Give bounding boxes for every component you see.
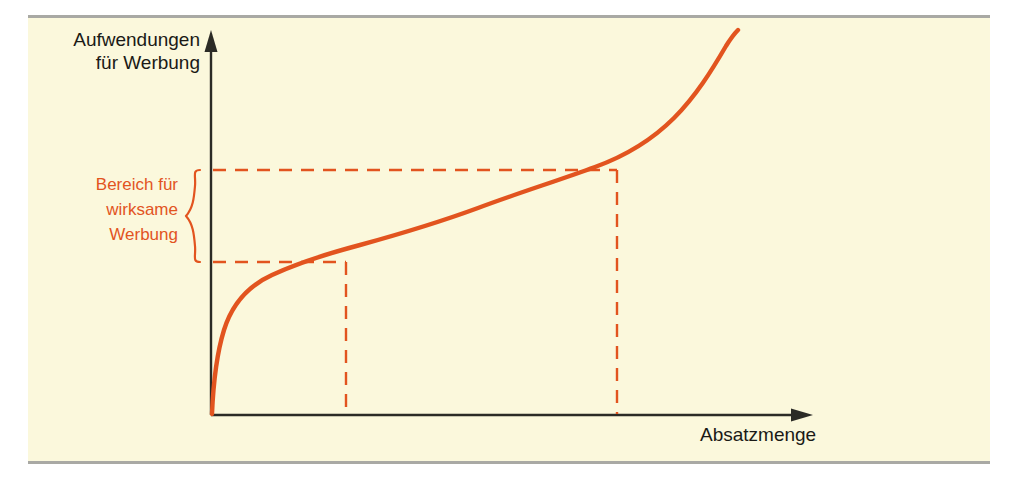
upper-threshold-guide xyxy=(213,170,617,414)
y-axis-label: Aufwendungen für Werbung xyxy=(52,28,200,74)
response-curve xyxy=(212,30,738,414)
advertising-response-curve-figure: Aufwendungen für Werbung Absatzmenge Ber… xyxy=(0,0,1010,484)
lower-threshold-guide xyxy=(213,262,346,414)
effective-range-brace-icon xyxy=(186,170,200,262)
x-axis-label: Absatzmenge xyxy=(700,423,816,446)
x-axis xyxy=(211,409,813,422)
effective-range-label: Bereich für wirksame Werbung xyxy=(48,172,178,247)
